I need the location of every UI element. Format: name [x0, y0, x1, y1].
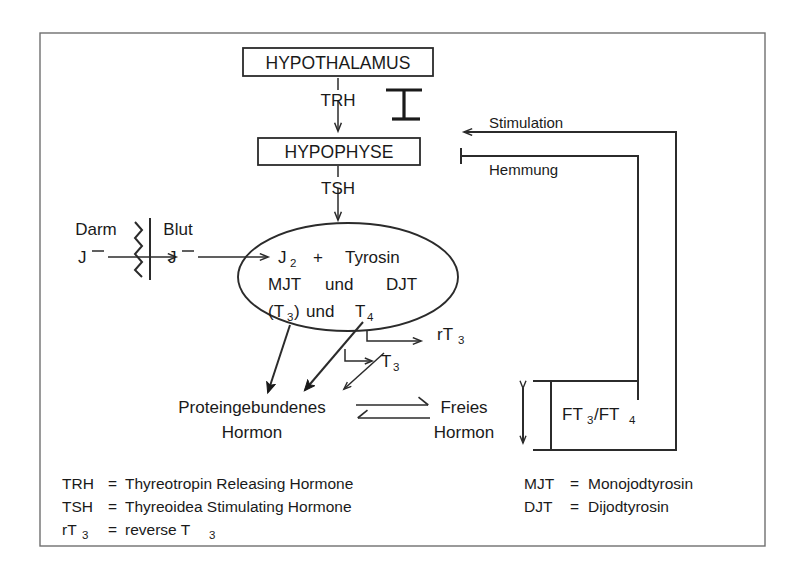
iodide-blut-symbol: J — [168, 248, 177, 267]
free-hormone-line1: Freies — [440, 398, 487, 417]
t4-symbol: T — [355, 302, 365, 321]
rt3-subscript: 3 — [458, 334, 464, 346]
legend-right: MJT = Monojodtyrosin DJT = Dijodtyrosin — [524, 475, 693, 515]
legend-left-1-eq: = — [108, 498, 117, 515]
t3-product-subscript: 3 — [393, 361, 399, 373]
legend-right-1-text: Dijodtyrosin — [588, 498, 669, 515]
t3-branch-arrow — [345, 349, 372, 361]
ft-level-indicator — [523, 381, 562, 450]
djt-label: DJT — [386, 275, 417, 294]
thyroid-regulation-diagram: HYPOTHALAMUS TRH HYPOPHYSE TSH Darm Blut… — [0, 0, 808, 579]
legend-right-1-eq: = — [570, 498, 579, 515]
trh-label: TRH — [321, 91, 356, 110]
ft-label-b-sub: 4 — [629, 414, 636, 426]
hemmung-feedback-path — [461, 148, 638, 400]
ft-label-a: FT — [562, 405, 583, 424]
darm-label: Darm — [75, 220, 117, 239]
bound-hormone-line2: Hormon — [222, 423, 282, 442]
trh-inhibition-icon — [386, 90, 422, 119]
legend-right-0-eq: = — [570, 475, 579, 492]
t3-product-label: T 3 — [381, 352, 399, 373]
legend-left-0-abbr: TRH — [62, 475, 94, 492]
hemmung-label: Hemmung — [489, 161, 558, 178]
diagram-canvas: HYPOTHALAMUS TRH HYPOPHYSE TSH Darm Blut… — [0, 0, 808, 579]
legend-left-2-abbr-sub: 3 — [82, 529, 88, 541]
tyrosin-label: Tyrosin — [345, 248, 400, 267]
t3-to-bound-hormone-arrow — [268, 325, 290, 392]
und-label-1: und — [325, 275, 353, 294]
ft-to-hemmung-connector — [551, 381, 638, 400]
t3-subscript: 3 — [287, 311, 293, 323]
iodide-darm: J — [78, 248, 104, 267]
j2-symbol: J — [278, 248, 287, 267]
legend-left: TRH = Thyreotropin Releasing Hormone TSH… — [62, 475, 353, 541]
t3-secondary-arrow — [344, 353, 384, 389]
thyroid-row-2: MJT und DJT — [268, 275, 417, 294]
stimulation-label: Stimulation — [489, 114, 563, 131]
t3-product-text: T — [381, 352, 391, 371]
rt3-label: rT 3 — [437, 325, 464, 346]
iodide-darm-symbol: J — [78, 248, 87, 267]
legend-left-2-abbr: rT — [62, 521, 77, 538]
legend-left-1-abbr: TSH — [62, 498, 93, 515]
ft-label-a-sub: 3 — [587, 414, 593, 426]
legend-left-1-text: Thyreoidea Stimulating Hormone — [125, 498, 352, 515]
mjt-label: MJT — [268, 275, 301, 294]
membrane-barrier-icon — [135, 218, 150, 280]
plus-sign: + — [313, 248, 323, 267]
ft-label-slash: /FT — [594, 405, 620, 424]
hypophyse-label: HYPOPHYSE — [285, 142, 394, 162]
t3-open-paren: (T — [268, 302, 284, 321]
legend-left-2-text-sub: 3 — [209, 529, 215, 541]
tsh-label: TSH — [321, 179, 355, 198]
equilibrium-arrows — [356, 405, 430, 418]
j2-subscript: 2 — [290, 257, 296, 269]
t3-close-paren: ) — [294, 302, 300, 321]
legend-right-1-abbr: DJT — [524, 498, 553, 515]
legend-right-0-abbr: MJT — [524, 475, 555, 492]
rt3-text: rT — [437, 325, 453, 344]
iodide-blut: J — [168, 248, 194, 267]
hypothalamus-label: HYPOTHALAMUS — [266, 53, 411, 73]
legend-right-0-text: Monojodtyrosin — [588, 475, 693, 492]
legend-left-2-eq: = — [108, 521, 117, 538]
legend-left-0-eq: = — [108, 475, 117, 492]
ft3-ft4-label: FT 3 /FT 4 — [562, 405, 636, 426]
free-hormone-line2: Hormon — [434, 423, 494, 442]
bound-hormone-line1: Proteingebundenes — [178, 398, 325, 417]
thyroid-row-1: J 2 + Tyrosin — [278, 248, 400, 269]
und-label-2: und — [306, 302, 334, 321]
legend-left-0-text: Thyreotropin Releasing Hormone — [125, 475, 353, 492]
t4-subscript: 4 — [367, 311, 374, 323]
legend-left-2-text: reverse T — [125, 521, 191, 538]
blut-label: Blut — [163, 220, 193, 239]
thyroid-row-3: (T 3 ) und T 4 — [268, 302, 374, 323]
rt3-branch-arrow — [367, 330, 421, 341]
